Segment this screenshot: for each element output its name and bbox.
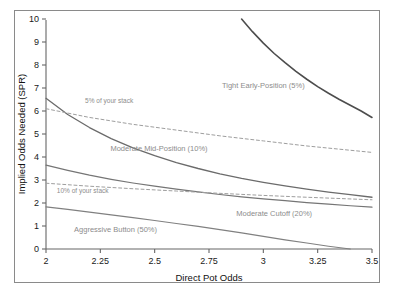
series-label-10-of-your-stack: 10% of your stack — [57, 187, 109, 195]
x-tick-label-3: 3 — [261, 256, 266, 266]
x-tick-label-2.75: 2.75 — [200, 256, 218, 266]
x-axis-title: Direct Pot Odds — [175, 272, 242, 282]
y-tick-label-3: 3 — [34, 175, 39, 185]
x-tick-label-2: 2 — [43, 256, 48, 266]
y-tick-label-8: 8 — [34, 60, 39, 70]
y-tick-label-1: 1 — [34, 221, 39, 231]
x-tick-label-3.5: 3.5 — [366, 256, 379, 266]
y-tick-label-0: 0 — [34, 244, 39, 254]
y-tick-label-2: 2 — [34, 198, 39, 208]
y-tick-label-10: 10 — [29, 14, 39, 24]
series-label-moderate-cutoff-20: Moderate Cutoff (20%) — [236, 209, 312, 218]
chart-plot: 01234567891022.252.52.7533.253.5Direct P… — [15, 11, 379, 282]
y-tick-label-9: 9 — [34, 37, 39, 47]
series-line-tight-early-position-5 — [242, 19, 372, 117]
y-tick-label-6: 6 — [34, 106, 39, 116]
series-label-moderate-mid-position-10: Moderate Mid-Position (10%) — [110, 144, 208, 153]
chart-frame: 01234567891022.252.52.7533.253.5Direct P… — [14, 10, 380, 283]
chart-canvas: 01234567891022.252.52.7533.253.5Direct P… — [0, 0, 395, 294]
x-tick-label-2.25: 2.25 — [92, 256, 110, 266]
y-tick-label-7: 7 — [34, 83, 39, 93]
series-label-aggressive-button-50: Aggressive Button (50%) — [74, 225, 157, 234]
y-tick-label-4: 4 — [34, 152, 39, 162]
x-tick-label-2.5: 2.5 — [148, 256, 161, 266]
series-label-tight-early-position-5: Tight Early-Position (5%) — [222, 81, 305, 90]
y-tick-label-5: 5 — [34, 129, 39, 139]
series-label-5-of-your-stack: 5% of your stack — [85, 97, 134, 105]
y-axis-title: Implied Odds Needed (SPR) — [16, 74, 27, 194]
x-tick-label-3.25: 3.25 — [309, 256, 327, 266]
